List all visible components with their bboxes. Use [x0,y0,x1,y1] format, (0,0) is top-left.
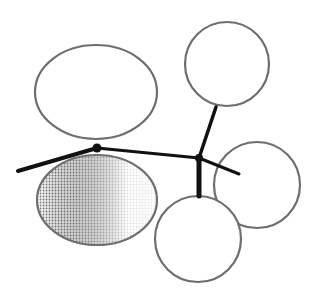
circle-top-right [185,22,269,106]
circle-bottom [155,196,241,282]
junction-right [195,154,203,162]
shapes-layer [35,22,300,282]
ellipse-shaded [37,155,157,245]
junction-left [93,144,102,153]
edge-to-top-right [199,107,216,158]
ellipse-top-left [35,45,157,139]
diagram-canvas [0,0,321,299]
diagram-svg [0,0,321,299]
